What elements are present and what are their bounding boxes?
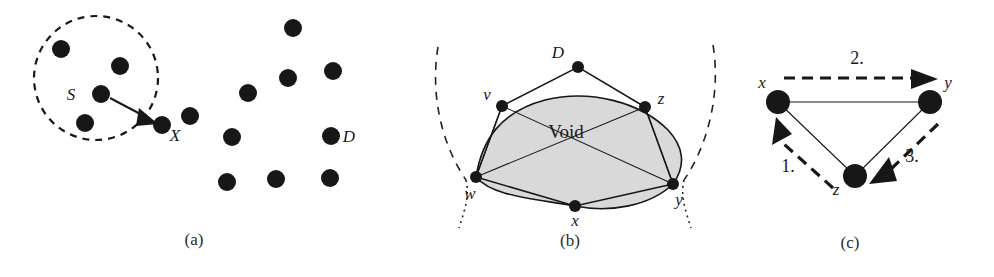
node-dot-destination xyxy=(322,127,340,145)
node-dot xyxy=(181,107,199,125)
label-c-y: y xyxy=(942,73,952,92)
edge-y-z xyxy=(855,102,930,176)
caption-b: (b) xyxy=(560,231,580,250)
figure-svg: S X D (a) xyxy=(0,0,994,277)
node-dot xyxy=(279,69,297,87)
right-dotted-arc xyxy=(683,180,691,228)
vertex-y xyxy=(667,178,679,190)
node-dot xyxy=(218,173,236,191)
step3-label: 3. xyxy=(905,146,919,166)
step1-arrow-head xyxy=(772,117,792,145)
label-c-x: x xyxy=(757,73,766,92)
label-s: S xyxy=(67,85,76,104)
node-c-z xyxy=(843,164,867,188)
node-dot-source xyxy=(92,85,110,103)
label-x: X xyxy=(169,126,181,145)
caption-a: (a) xyxy=(185,230,204,249)
node-dot xyxy=(284,19,302,37)
node-dot xyxy=(324,62,342,80)
step1-label: 1. xyxy=(781,156,795,176)
void-label: Void xyxy=(548,121,584,142)
label-b-y: y xyxy=(673,190,683,209)
vertex-w xyxy=(470,171,482,183)
label-b-v: v xyxy=(483,85,491,104)
panel-b: Void D v z w x y (b) xyxy=(436,43,716,250)
node-dot xyxy=(239,84,257,102)
panel-c: 2. 1. 3. x y z (c) xyxy=(757,48,952,252)
vertex-z xyxy=(639,101,651,113)
node-c-x xyxy=(766,90,790,114)
node-dot xyxy=(321,169,339,187)
label-b-z: z xyxy=(657,89,665,108)
node-dot xyxy=(111,57,129,75)
panel-a: S X D (a) xyxy=(34,16,356,249)
void-region xyxy=(476,96,682,209)
node-dot-target xyxy=(153,116,171,134)
step3-arrow-head xyxy=(869,157,897,184)
node-dot xyxy=(52,40,70,58)
left-dashed-arc xyxy=(436,47,466,180)
label-c-z: z xyxy=(832,180,840,199)
label-b-d: D xyxy=(551,43,565,62)
node-c-y xyxy=(918,90,942,114)
vertex-d xyxy=(572,61,584,73)
node-dot xyxy=(267,170,285,188)
figure-container: S X D (a) xyxy=(0,0,994,277)
node-dot xyxy=(76,114,94,132)
vertex-v xyxy=(496,100,508,112)
step2-arrow-head xyxy=(911,69,938,89)
right-dashed-arc xyxy=(684,45,715,180)
label-d: D xyxy=(342,127,356,146)
label-b-w: w xyxy=(464,184,476,203)
step2-label: 2. xyxy=(850,48,864,68)
label-b-x: x xyxy=(570,211,579,230)
caption-c: (c) xyxy=(841,233,860,252)
node-dot xyxy=(223,128,241,146)
forward-arrow-head xyxy=(136,108,158,126)
